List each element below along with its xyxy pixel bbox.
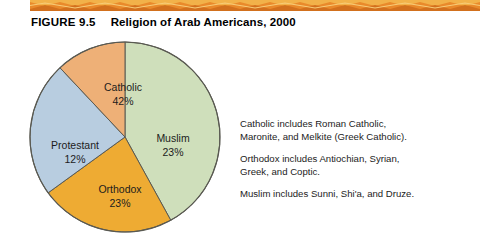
pie-slice-label-orthodox: Orthodox bbox=[98, 183, 142, 195]
decorative-top-band bbox=[30, 0, 480, 11]
pie-slice-value-protestant: 12% bbox=[64, 153, 85, 165]
figure-title-row: FIGURE 9.5 Religion of Arab Americans, 2… bbox=[31, 16, 296, 28]
note-muslim-line1: Muslim includes Sunni, Shi'a, and Druze. bbox=[240, 188, 485, 201]
notes-block: Catholic includes Roman Catholic, Maroni… bbox=[240, 118, 485, 201]
pie-slice-value-orthodox: 23% bbox=[109, 197, 130, 209]
pie-chart-svg: Catholic42%Muslim23%Orthodox23%Protestan… bbox=[27, 39, 223, 235]
pie-slice-label-muslim: Muslim bbox=[156, 132, 190, 144]
note-orthodox: Orthodox includes Antiochian, Syrian, Gr… bbox=[240, 153, 485, 178]
pie-slice-value-muslim: 23% bbox=[162, 146, 183, 158]
note-orthodox-line2: Greek, and Coptic. bbox=[240, 166, 485, 179]
figure-number: FIGURE 9.5 bbox=[31, 16, 96, 28]
page-title: Religion of Arab Americans, 2000 bbox=[111, 16, 296, 28]
pie-slice-value-catholic: 42% bbox=[112, 95, 133, 107]
note-orthodox-line1: Orthodox includes Antiochian, Syrian, bbox=[240, 153, 485, 166]
note-muslim: Muslim includes Sunni, Shi'a, and Druze. bbox=[240, 188, 485, 201]
note-catholic: Catholic includes Roman Catholic, Maroni… bbox=[240, 118, 485, 143]
note-catholic-line2: Maronite, and Melkite (Greek Catholic). bbox=[240, 131, 485, 144]
pie-slice-label-protestant: Protestant bbox=[51, 139, 99, 151]
zigzag-band-icon bbox=[30, 0, 480, 11]
note-catholic-line1: Catholic includes Roman Catholic, bbox=[240, 118, 485, 131]
pie-chart: Catholic42%Muslim23%Orthodox23%Protestan… bbox=[27, 39, 223, 235]
pie-slice-label-catholic: Catholic bbox=[104, 81, 142, 93]
